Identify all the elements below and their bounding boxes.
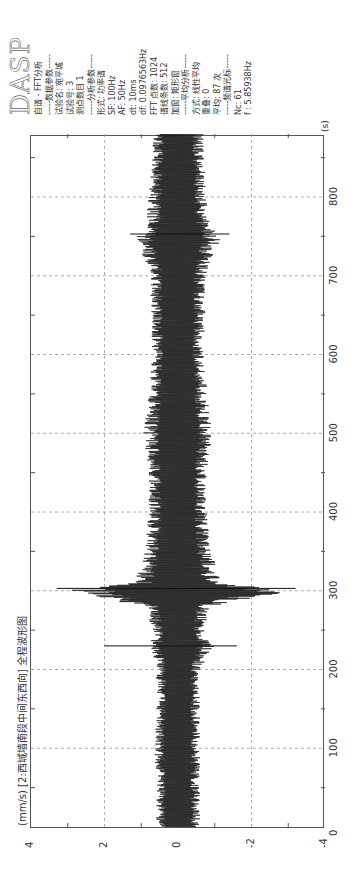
- y-tick-label: 4: [24, 842, 35, 848]
- x-tick-label: 0: [328, 830, 339, 836]
- y-tick-label: -2: [245, 838, 256, 848]
- x-tick-label: 300: [328, 581, 339, 600]
- y-tick-label: -4: [318, 838, 329, 848]
- chart-stage: (mm/s) [2:西城墙南段中间东西向] 全程波形图 -4-2024 0100…: [0, 0, 356, 888]
- info-line: FFT 点数: 1024: [150, 5, 161, 115]
- y-tick-label: 0: [171, 842, 182, 848]
- dasp-logo: DASP: [6, 5, 34, 115]
- info-panel: DASP 自谱 - FFT分析-----数据参数-----试验名: 宛平城试验号…: [6, 5, 255, 115]
- info-line: -----分析参数-----: [87, 5, 98, 115]
- info-line: f : 5.85938Hz: [244, 5, 255, 115]
- info-line: dt: 10ms: [129, 5, 140, 115]
- info-line: 谱线条数: 512: [160, 5, 171, 115]
- x-tick-label: 800: [328, 187, 339, 206]
- info-line: df: 0.0976563Hz: [139, 5, 150, 115]
- waveform-plot: [31, 134, 325, 827]
- chart-title: (mm/s) [2:西城墙南段中间东西向] 全程波形图: [14, 616, 29, 826]
- info-line: -----数据参数-----: [45, 5, 56, 115]
- info-line: 测点数目 1: [76, 5, 87, 115]
- x-tick-label: 100: [328, 738, 339, 757]
- x-tick-label: 200: [328, 659, 339, 678]
- info-line: 自谱 - FFT分析: [34, 5, 45, 115]
- x-axis-unit: (s): [320, 120, 330, 132]
- info-line: 加窗: 矩形窗: [171, 5, 182, 115]
- info-line: -----平均分析-----: [181, 5, 192, 115]
- plot-area: [30, 135, 324, 828]
- y-tick-label: 2: [98, 842, 109, 848]
- info-line: 试验名: 宛平城: [55, 5, 66, 115]
- x-tick-label: 700: [328, 266, 339, 285]
- info-line: 平均: 87 次: [213, 5, 224, 115]
- x-tick-label: 500: [328, 423, 339, 442]
- info-lines: 自谱 - FFT分析-----数据参数-----试验名: 宛平城试验号: 3测点…: [34, 5, 255, 115]
- x-tick-label: 600: [328, 344, 339, 363]
- x-tick-label: 400: [328, 502, 339, 521]
- info-line: 重叠: 0: [202, 5, 213, 115]
- info-line: 试验号: 3: [66, 5, 77, 115]
- info-line: SF: 100Hz: [108, 5, 119, 115]
- info-line: -----频谱光标-----: [223, 5, 234, 115]
- info-line: 形式: 功率谱: [97, 5, 108, 115]
- info-line: 方式: 线性平均: [192, 5, 203, 115]
- info-line: AF: 50Hz: [118, 5, 129, 115]
- info-line: Nc: 61: [234, 5, 245, 115]
